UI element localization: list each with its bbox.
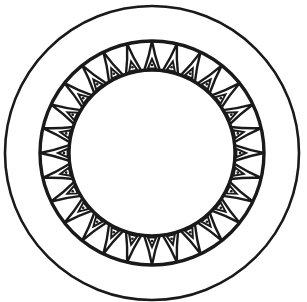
triangle-dot	[65, 132, 68, 135]
triangle-dot	[131, 66, 134, 69]
triangle-dot	[71, 114, 74, 117]
triangle-dot	[96, 83, 99, 86]
triangle-dot	[113, 72, 116, 75]
triangle-dot	[239, 152, 242, 155]
triangle-dot	[236, 132, 239, 135]
triangle-dot	[151, 240, 154, 243]
triangle-dot	[230, 114, 233, 117]
triangle-dot	[170, 237, 173, 240]
triangle-dot	[65, 171, 68, 174]
triangle-dot	[220, 207, 223, 210]
triangle-dot	[63, 152, 66, 155]
triangle-dot	[113, 231, 116, 234]
band-outer-edge	[40, 41, 264, 265]
band-inner-edge	[69, 70, 235, 236]
triangle-dot	[82, 97, 85, 100]
ring-diagram	[0, 0, 307, 302]
outer-circle	[5, 6, 299, 300]
triangle-dot	[220, 97, 223, 100]
triangle-dot	[206, 221, 209, 224]
triangle-dot	[71, 190, 74, 193]
triangle-dot	[230, 190, 233, 193]
triangle-dot	[189, 231, 192, 234]
triangle-dot	[189, 72, 192, 75]
triangle-dot	[206, 83, 209, 86]
triangle-dot	[82, 207, 85, 210]
triangle-dot	[131, 237, 134, 240]
triangle-dot	[151, 64, 154, 67]
triangle-dot	[96, 221, 99, 224]
triangle-dot	[236, 171, 239, 174]
triangle-dot	[170, 66, 173, 69]
